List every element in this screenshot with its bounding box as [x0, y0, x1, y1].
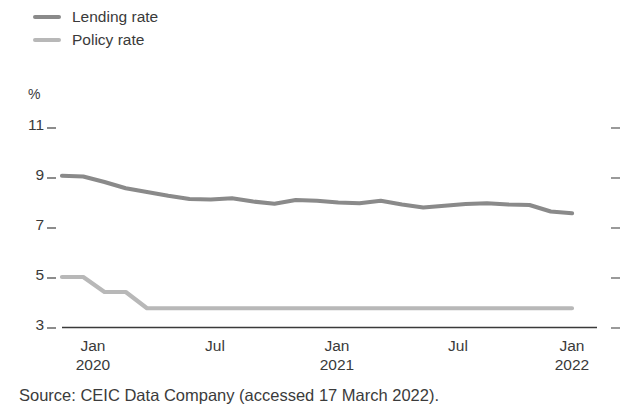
x-tick-year-2: 2021	[292, 355, 382, 374]
x-tick-year-4: 2022	[527, 355, 617, 374]
x-tick-month-2: Jan	[292, 336, 382, 355]
x-tick-month-0: Jan	[48, 336, 138, 355]
x-tick-label-jul-2021: Jul	[413, 336, 503, 355]
x-tick-month-3: Jul	[413, 336, 503, 355]
x-tick-label-jan-2021: Jan 2021	[292, 336, 382, 374]
x-tick-year-0: 2020	[48, 355, 138, 374]
x-tick-label-jan-2020: Jan 2020	[48, 336, 138, 374]
chart-figure: Lending rate Policy rate % 11 9 7 5 3 Ja…	[0, 0, 644, 417]
x-tick-month-4: Jan	[527, 336, 617, 355]
series-line-policy-rate	[62, 277, 572, 308]
x-tick-label-jul-2020: Jul	[170, 336, 260, 355]
x-tick-month-1: Jul	[170, 336, 260, 355]
source-note: Source: CEIC Data Company (accessed 17 M…	[19, 386, 439, 405]
x-tick-label-jan-2022: Jan 2022	[527, 336, 617, 374]
series-line-lending-rate	[62, 176, 572, 214]
